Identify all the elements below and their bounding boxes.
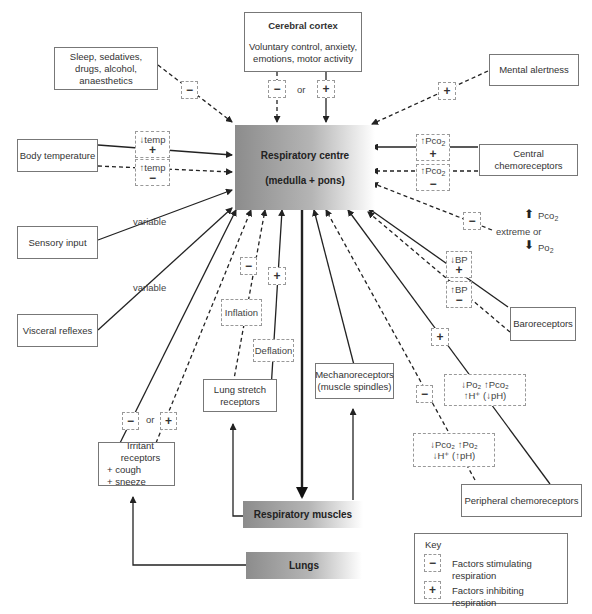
sensory-input-box: Sensory input bbox=[17, 226, 98, 259]
minus-icon: − bbox=[468, 216, 475, 227]
cortex-plus-badge: + bbox=[317, 80, 335, 98]
mechanoreceptors-box: Mechanoreceptors (muscle spindles) bbox=[315, 363, 394, 399]
body-temperature-label: Body temperature bbox=[20, 150, 96, 162]
cerebral-cortex-line2: emotions, motor activity bbox=[253, 53, 353, 65]
mental-alertness-box: Mental alertness bbox=[489, 54, 579, 86]
key-inhibiting-label: Factors inhibiting respiration bbox=[452, 585, 567, 609]
extreme-label: extreme or bbox=[496, 226, 541, 237]
deflation-badge: Deflation bbox=[253, 339, 294, 362]
irritant-line1: Irritant receptors bbox=[107, 440, 174, 464]
respiratory-centre-title: Respiratory centre bbox=[261, 150, 349, 161]
sleep-line3: anaesthetics bbox=[79, 75, 132, 87]
plus-icon: + bbox=[322, 84, 329, 95]
peripheral-chemoreceptors-box: Peripheral chemoreceptors bbox=[461, 484, 582, 517]
minus-icon: − bbox=[186, 85, 193, 96]
sensory-variable-label: variable bbox=[133, 216, 166, 227]
respiratory-centre-subtitle: (medulla + pons) bbox=[265, 175, 345, 186]
cerebral-cortex-title: Cerebral cortex bbox=[268, 20, 338, 32]
minus-icon: − bbox=[273, 84, 280, 95]
plus-icon: + bbox=[165, 416, 172, 427]
lung-stretch-plus-badge: + bbox=[268, 267, 286, 285]
peripheral-inhib-line2: ↓H⁺ (↑pH) bbox=[433, 450, 475, 461]
respiratory-muscles-bar: Respiratory muscles bbox=[243, 501, 363, 528]
mechano-line1: Mechanoreceptors bbox=[315, 369, 394, 381]
pco2-up-plus-badge: ↑Pco2 + bbox=[416, 134, 450, 161]
visceral-reflexes-box: Visceral reflexes bbox=[17, 314, 98, 347]
peripheral-minus-badge: − bbox=[416, 385, 433, 403]
irritant-line3: + sneeze bbox=[107, 476, 146, 488]
plus-icon: + bbox=[455, 265, 462, 276]
cerebral-cortex-line1: Voluntary control, anxiety, bbox=[249, 41, 357, 53]
key-minus-badge: − bbox=[424, 554, 441, 572]
central-chemoreceptors-label: Central chemoreceptors bbox=[480, 148, 577, 172]
peripheral-plus-badge: + bbox=[431, 328, 449, 346]
key-stimulating-label: Factors stimulating respiration bbox=[452, 558, 567, 582]
peripheral-inhib-conditions: ↓Pco₂ ↑Po₂ ↓H⁺ (↑pH) bbox=[413, 433, 495, 467]
peripheral-stim-line1: ↓Po₂ ↑Pco₂ bbox=[461, 379, 509, 390]
plus-icon: + bbox=[273, 271, 280, 282]
respiratory-muscles-label: Respiratory muscles bbox=[254, 509, 352, 520]
minus-icon: − bbox=[421, 389, 428, 400]
minus-icon: − bbox=[455, 295, 462, 306]
pco2-up-arrow-icon: ⬆ bbox=[524, 207, 534, 221]
key-plus-badge: + bbox=[424, 581, 441, 599]
sleep-line2: drugs, alcohol, bbox=[75, 63, 137, 75]
mental-plus-badge: + bbox=[438, 82, 456, 100]
key-legend: Key − Factors stimulating respiration + … bbox=[414, 533, 568, 604]
lungs-bar: Lungs bbox=[246, 552, 362, 579]
plus-icon: + bbox=[429, 585, 436, 596]
visceral-reflexes-label: Visceral reflexes bbox=[23, 325, 93, 337]
lung-stretch-line2: receptors bbox=[220, 396, 260, 408]
baroreceptors-box: Baroreceptors bbox=[510, 307, 576, 341]
lung-stretch-line1: Lung stretch bbox=[214, 384, 266, 396]
peripheral-stim-conditions: ↓Po₂ ↑Pco₂ ↑H⁺ (↓pH) bbox=[444, 374, 526, 406]
inflation-label: Inflation bbox=[225, 307, 258, 318]
sensory-input-label: Sensory input bbox=[28, 237, 86, 249]
high-bp-badge: ↑BP − bbox=[446, 281, 472, 308]
cortex-minus-badge: − bbox=[268, 80, 286, 98]
sleep-sedatives-box: Sleep, sedatives, drugs, alcohol, anaest… bbox=[54, 47, 158, 90]
irritant-plus-badge: + bbox=[160, 412, 177, 430]
plus-icon: + bbox=[429, 149, 436, 160]
sleep-minus-badge: − bbox=[181, 81, 198, 99]
lungs-label: Lungs bbox=[289, 560, 319, 571]
sleep-line1: Sleep, sedatives, bbox=[70, 51, 142, 63]
mental-alertness-label: Mental alertness bbox=[499, 64, 569, 76]
cortex-or-label: or bbox=[297, 84, 305, 95]
po2-label: Po2 bbox=[538, 242, 554, 254]
irritant-or-label: or bbox=[146, 414, 154, 425]
baroreceptors-label: Baroreceptors bbox=[513, 318, 573, 330]
minus-icon: − bbox=[127, 416, 134, 427]
central-chemoreceptors-box: Central chemoreceptors bbox=[479, 144, 578, 176]
minus-icon: − bbox=[429, 179, 436, 190]
plus-icon: + bbox=[436, 332, 443, 343]
peripheral-inhib-line1: ↓Pco₂ ↑Po₂ bbox=[430, 439, 478, 450]
pco2-label: Pco2 bbox=[538, 210, 558, 222]
extreme-minus-badge: − bbox=[463, 212, 481, 230]
minus-icon: − bbox=[149, 173, 156, 184]
high-temp-badge: ↑temp − bbox=[135, 159, 170, 186]
irritant-minus-badge: − bbox=[122, 412, 139, 430]
irritant-line2: + cough bbox=[107, 464, 141, 476]
body-temperature-box: Body temperature bbox=[17, 139, 98, 172]
respiratory-centre: Respiratory centre (medulla + pons) bbox=[235, 125, 375, 210]
low-bp-badge: ↓BP + bbox=[446, 251, 472, 278]
lung-stretch-minus-badge: − bbox=[240, 257, 257, 275]
minus-icon: − bbox=[429, 558, 436, 569]
key-title: Key bbox=[425, 539, 441, 551]
peripheral-stim-line2: ↑H⁺ (↓pH) bbox=[464, 390, 506, 401]
plus-icon: + bbox=[149, 145, 156, 156]
mechano-line2: (muscle spindles) bbox=[318, 381, 392, 393]
visceral-variable-label: variable bbox=[133, 282, 166, 293]
lung-stretch-receptors-box: Lung stretch receptors bbox=[203, 379, 277, 412]
pco2-up-minus-badge: ↑Pco2 − bbox=[416, 164, 450, 191]
plus-icon: + bbox=[443, 86, 450, 97]
deflation-label: Deflation bbox=[255, 345, 293, 356]
irritant-receptors-box: Irritant receptors + cough + sneeze bbox=[98, 442, 175, 486]
peripheral-chemoreceptors-label: Peripheral chemoreceptors bbox=[464, 495, 578, 507]
low-temp-badge: ↓temp + bbox=[135, 131, 170, 158]
inflation-badge: Inflation bbox=[221, 299, 262, 326]
cerebral-cortex-box: Cerebral cortex Voluntary control, anxie… bbox=[244, 12, 362, 72]
minus-icon: − bbox=[245, 261, 252, 272]
po2-down-arrow-icon: ⬇ bbox=[524, 238, 534, 252]
